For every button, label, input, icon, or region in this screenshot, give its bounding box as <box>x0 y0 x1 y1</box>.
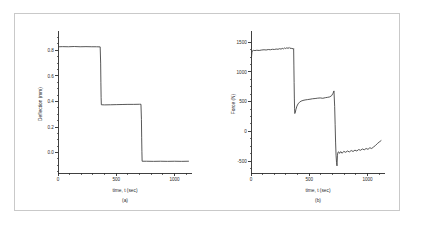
figure-root: 0.00.20.40.60.805001000time, t (sec)Defl… <box>0 0 421 226</box>
y-tick-label: 1500 <box>237 40 248 45</box>
x-tick-label: 1000 <box>169 177 180 182</box>
panel-caption: (a) <box>122 198 128 203</box>
y-axis-title: Deflection (mm) <box>38 87 43 121</box>
y-tick-label: 0 <box>244 129 247 134</box>
x-tick-label: 500 <box>305 177 313 182</box>
chart-panel-a: 0.00.20.40.60.805001000time, t (sec)Defl… <box>14 13 207 211</box>
x-axis-title: time, t (sec) <box>305 188 330 193</box>
deflection-vs-time-chart: 0.00.20.40.60.805001000time, t (sec)Defl… <box>14 13 207 211</box>
x-tick-label: 0 <box>57 177 60 182</box>
y-tick-label: 0.8 <box>47 48 54 53</box>
y-tick-label: 1000 <box>237 70 248 75</box>
x-axis-title: time, t (sec) <box>112 188 137 193</box>
x-tick-label: 1000 <box>362 177 373 182</box>
x-tick-label: 0 <box>250 177 253 182</box>
y-axis-title: Force (N) <box>231 93 236 114</box>
chart-panel-b: -50005001000150005001000time, t (sec)For… <box>207 13 400 211</box>
y-tick-label: 0.4 <box>47 99 54 104</box>
panel-caption: (b) <box>315 198 321 203</box>
y-tick-label: -500 <box>238 159 248 164</box>
y-tick-label: 0.0 <box>47 150 54 155</box>
force-vs-time-chart: -50005001000150005001000time, t (sec)For… <box>207 13 400 211</box>
y-tick-label: 500 <box>239 99 247 104</box>
x-tick-label: 500 <box>112 177 120 182</box>
y-tick-label: 0.6 <box>47 74 54 79</box>
y-tick-label: 0.2 <box>47 125 54 130</box>
data-series-line <box>251 47 381 165</box>
data-series-line <box>59 47 189 162</box>
